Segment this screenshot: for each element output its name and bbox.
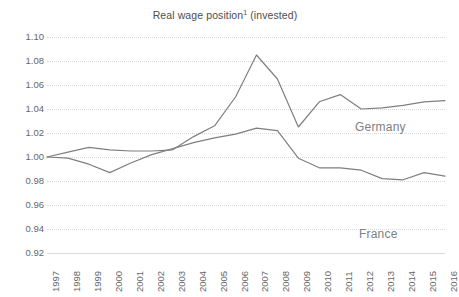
series-label-france: France — [359, 227, 398, 241]
x-tick-label: 2000 — [114, 271, 124, 292]
series-line-germany — [47, 55, 445, 157]
series-lines — [47, 37, 445, 253]
x-tick-label: 1998 — [72, 271, 82, 292]
y-tick-label: 1.00 — [8, 152, 44, 162]
plot-area: Germany France — [47, 37, 445, 253]
y-tick-label: 0.98 — [8, 176, 44, 186]
x-axis: 1997199819992000200120022003200420052006… — [47, 256, 445, 297]
x-tick-label: 1999 — [93, 271, 103, 292]
chart-title-main: Real wage position — [153, 9, 244, 21]
x-tick-label: 2011 — [344, 272, 354, 292]
chart-title: Real wage position1 (invested) — [0, 9, 450, 21]
x-tick-label: 2006 — [240, 271, 250, 292]
y-tick-label: 1.10 — [8, 32, 44, 42]
y-tick-label: 1.06 — [8, 80, 44, 90]
y-tick-label: 1.04 — [8, 104, 44, 114]
x-tick-label: 2010 — [323, 271, 333, 292]
y-tick-label: 1.08 — [8, 56, 44, 66]
x-tick-label: 2008 — [281, 271, 291, 292]
y-tick-label: 0.94 — [8, 224, 44, 234]
series-line-france — [47, 128, 445, 180]
gridline — [47, 253, 445, 254]
y-axis: 1.101.081.061.041.021.000.980.960.940.92 — [0, 0, 44, 297]
y-tick-label: 1.02 — [8, 128, 44, 138]
x-tick-label: 2002 — [156, 271, 166, 292]
y-tick-label: 0.92 — [8, 248, 44, 258]
x-tick-label: 2001 — [135, 271, 145, 292]
x-tick-label: 2004 — [198, 271, 208, 292]
x-tick-label: 2014 — [407, 271, 417, 292]
y-tick-label: 0.96 — [8, 200, 44, 210]
series-label-germany: Germany — [355, 120, 406, 134]
x-tick-label: 2003 — [177, 271, 187, 292]
x-tick-label: 2007 — [260, 271, 270, 292]
x-tick-label: 1997 — [51, 271, 61, 292]
x-tick-label: 2015 — [428, 271, 438, 292]
x-tick-label: 2013 — [386, 271, 396, 292]
x-tick-label: 2012 — [365, 271, 375, 292]
x-tick-label: 2005 — [219, 271, 229, 292]
chart-title-suffix: (invested) — [247, 9, 297, 21]
x-tick-label: 2009 — [302, 271, 312, 292]
x-tick-label: 2016 — [449, 271, 459, 292]
